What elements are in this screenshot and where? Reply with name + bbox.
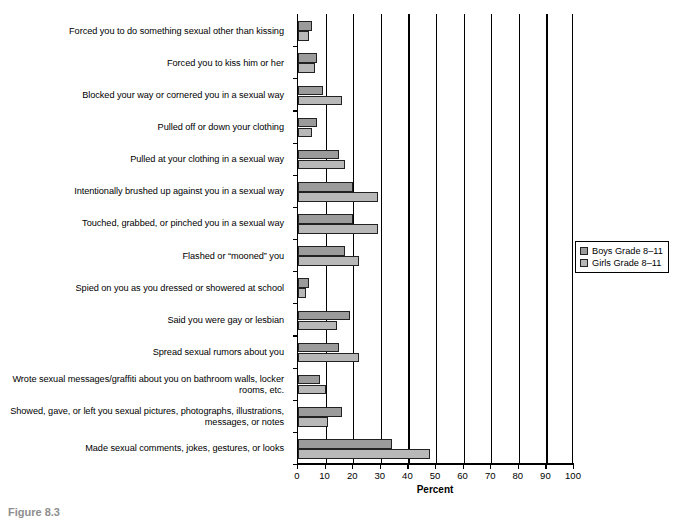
category-tick [293, 46, 298, 47]
bar-boys [298, 21, 312, 31]
x-axis-tick-label: 60 [457, 470, 468, 481]
x-axis-tick-label: 20 [347, 470, 358, 481]
bar-girls [298, 321, 337, 331]
category-tick [293, 143, 298, 144]
gridline [408, 14, 409, 464]
category-label: Pulled off or down your clothing [0, 122, 284, 133]
category-tick [293, 271, 298, 272]
bar-girls [298, 385, 326, 395]
category-label: Said you were gay or lesbian [0, 315, 284, 326]
x-axis-tick-label: 90 [540, 470, 551, 481]
category-label: Spread sexual rumors about you [0, 347, 284, 358]
x-axis-tick [325, 463, 326, 469]
category-label: Forced you to do something sexual other … [0, 26, 284, 37]
bar-boys [298, 53, 317, 63]
x-axis-tick-label: 100 [565, 470, 581, 481]
bar-girls [298, 31, 309, 41]
gridline [353, 14, 354, 464]
category-label: Intentionally brushed up against you in … [0, 186, 284, 197]
category-tick [293, 110, 298, 111]
x-axis-tick [490, 463, 491, 469]
category-tick [293, 239, 298, 240]
legend-item-boys: Boys Grade 8–11 [580, 245, 663, 257]
gridline [381, 14, 382, 464]
bar-boys [298, 118, 317, 128]
category-tick [293, 432, 298, 433]
category-label: Wrote sexual messages/graffiti about you… [0, 374, 284, 395]
gridline [436, 14, 437, 464]
category-tick [293, 303, 298, 304]
category-tick [293, 368, 298, 369]
x-axis-tick [545, 463, 546, 469]
plot-area [297, 14, 573, 464]
bar-boys [298, 182, 353, 192]
category-label-column: Forced you to do something sexual other … [0, 14, 290, 464]
bar-boys [298, 150, 339, 160]
x-axis-tick-label: 50 [430, 470, 441, 481]
bar-girls [298, 417, 328, 427]
legend-swatch-boys-icon [580, 247, 588, 255]
bar-girls [298, 96, 342, 106]
x-axis-tick [463, 463, 464, 469]
bar-girls [298, 256, 359, 266]
bar-boys [298, 278, 309, 288]
x-axis-tick [435, 463, 436, 469]
bar-boys [298, 343, 339, 353]
category-label: Blocked your way or cornered you in a se… [0, 90, 284, 101]
x-axis-tick [573, 463, 574, 469]
legend-label-girls: Girls Grade 8–11 [592, 258, 661, 268]
bar-boys [298, 407, 342, 417]
x-axis-tick [297, 463, 298, 469]
bar-girls [298, 192, 378, 202]
category-label: Made sexual comments, jokes, gestures, o… [0, 443, 284, 454]
x-axis-tick [380, 463, 381, 469]
category-label: Flashed or “mooned” you [0, 251, 284, 262]
gridline [326, 14, 327, 464]
gridline [519, 14, 520, 464]
category-tick [293, 400, 298, 401]
figure-caption: Figure 8.3 [8, 506, 60, 518]
x-axis-tick [407, 463, 408, 469]
bar-girls [298, 449, 430, 459]
x-axis-tick-label: 40 [402, 470, 413, 481]
horizontal-bar-chart: Forced you to do something sexual other … [0, 0, 696, 518]
category-label: Forced you to kiss him or her [0, 58, 284, 69]
category-label: Pulled at your clothing in a sexual way [0, 154, 284, 165]
category-label: Spied on you as you dressed or showered … [0, 283, 284, 294]
category-tick [293, 78, 298, 79]
category-tick [293, 175, 298, 176]
legend-swatch-girls-icon [580, 259, 588, 267]
category-label: Touched, grabbed, or pinched you in a se… [0, 218, 284, 229]
x-axis-title: Percent [297, 484, 573, 495]
chart-legend: Boys Grade 8–11 Girls Grade 8–11 [575, 241, 669, 273]
bar-girls [298, 288, 306, 298]
bar-boys [298, 311, 350, 321]
bar-girls [298, 63, 315, 73]
x-axis-tick-label: 30 [375, 470, 386, 481]
x-axis-tick [518, 463, 519, 469]
x-axis-tick-label: 10 [319, 470, 330, 481]
x-axis-tick-label: 0 [294, 470, 299, 481]
bar-boys [298, 375, 320, 385]
x-axis-tick-label: 80 [513, 470, 524, 481]
legend-label-boys: Boys Grade 8–11 [592, 246, 663, 256]
bar-girls [298, 128, 312, 138]
x-axis-tick [352, 463, 353, 469]
bar-boys [298, 439, 392, 449]
bar-boys [298, 246, 345, 256]
gridline [546, 14, 547, 464]
gridline [491, 14, 492, 464]
bar-boys [298, 214, 353, 224]
category-tick [293, 207, 298, 208]
bar-girls [298, 224, 378, 234]
bar-girls [298, 353, 359, 363]
x-axis-tick-label: 70 [485, 470, 496, 481]
category-tick [293, 335, 298, 336]
category-label: Showed, gave, or left you sexual picture… [0, 406, 284, 427]
bar-boys [298, 86, 323, 96]
gridline [464, 14, 465, 464]
legend-item-girls: Girls Grade 8–11 [580, 257, 663, 269]
bar-girls [298, 160, 345, 170]
